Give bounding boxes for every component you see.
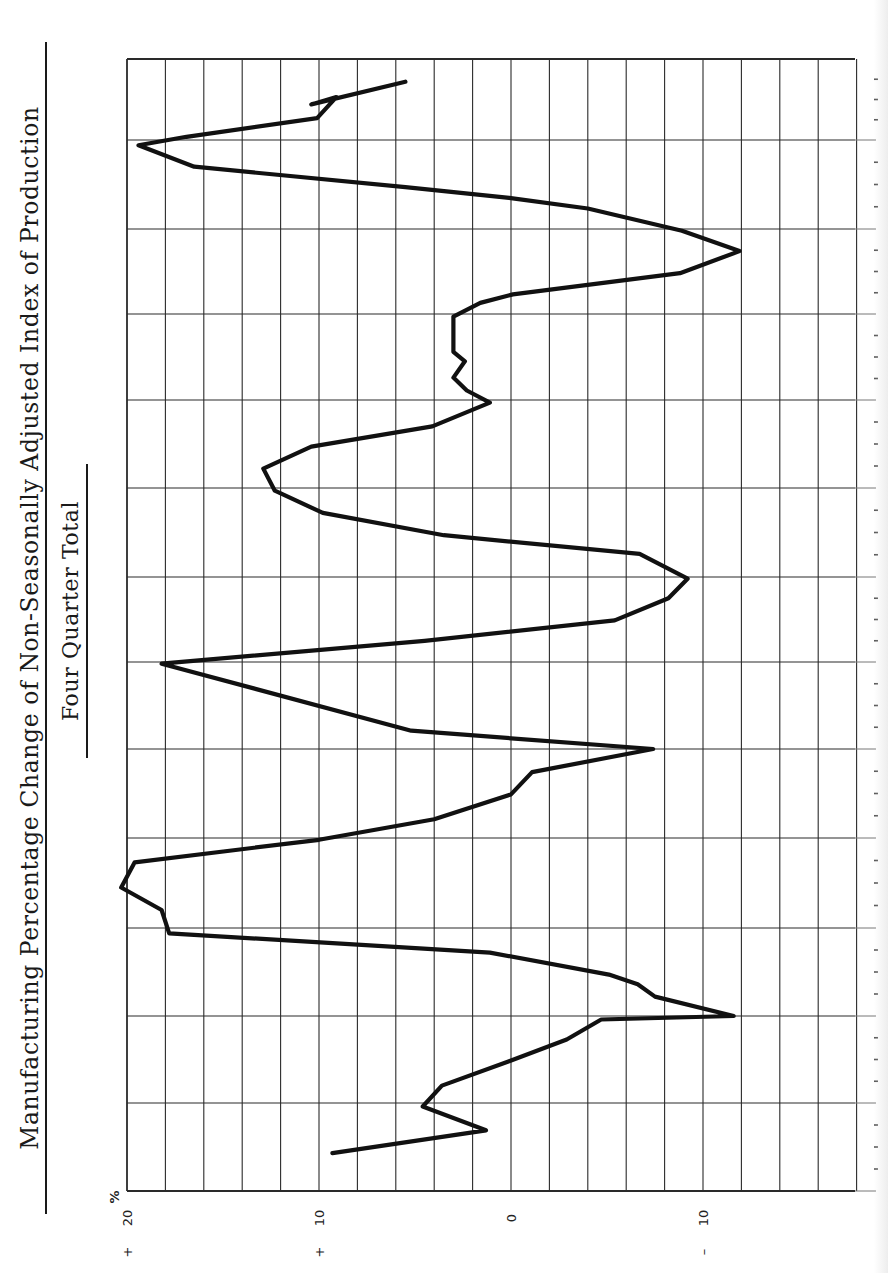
chart-plot-area: 20+10+010–%	[0, 0, 888, 1273]
axis-tick-label: 0	[504, 1214, 519, 1222]
percent-unit-label: %	[107, 1190, 122, 1203]
axis-sign-label: –	[696, 1249, 711, 1256]
axis-tick-label: 10	[696, 1210, 711, 1227]
axis-sign-label: +	[312, 1247, 327, 1258]
value-axis-labels: 20+10+010–%	[107, 1190, 711, 1257]
data-series-line	[121, 82, 739, 1154]
axis-sign-label: +	[120, 1247, 135, 1258]
chart-grid	[127, 59, 857, 1191]
axis-tick-label: 20	[120, 1210, 135, 1227]
axis-tick-label: 10	[312, 1210, 327, 1227]
page-edge-shadow	[874, 0, 888, 1273]
